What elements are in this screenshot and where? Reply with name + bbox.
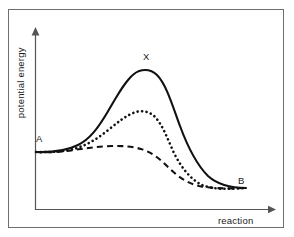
x-axis-arrow-icon — [268, 206, 276, 213]
reactant-label-a: A — [36, 134, 43, 144]
y-axis-label: potential energy — [16, 42, 26, 124]
transition-state-label-x: X — [143, 52, 150, 62]
y-axis-arrow-icon — [32, 27, 40, 36]
energy-profile-figure: A B X reaction potential energy — [0, 0, 294, 237]
plot-canvas — [0, 0, 294, 237]
x-axis-label: reaction — [218, 216, 253, 226]
product-label-b: B — [238, 176, 245, 186]
curve-fully-catalysed — [36, 146, 246, 188]
curve-uncatalysed — [36, 70, 246, 188]
